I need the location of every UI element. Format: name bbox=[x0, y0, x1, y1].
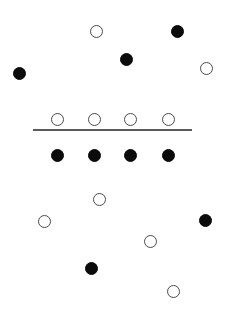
filled-circle-marker bbox=[124, 149, 137, 162]
dot-diagram-figure bbox=[0, 0, 229, 309]
open-circle-marker bbox=[88, 113, 101, 126]
open-circle-marker bbox=[162, 113, 175, 126]
filled-circle-marker bbox=[88, 149, 101, 162]
open-circle-marker bbox=[144, 235, 157, 248]
open-circle-marker bbox=[93, 193, 106, 206]
open-circle-marker bbox=[90, 25, 103, 38]
open-circle-marker bbox=[200, 62, 213, 75]
open-circle-marker bbox=[51, 113, 64, 126]
filled-circle-marker bbox=[199, 214, 212, 227]
filled-circle-marker bbox=[51, 149, 64, 162]
open-circle-marker bbox=[167, 285, 180, 298]
filled-circle-marker bbox=[171, 25, 184, 38]
open-circle-marker bbox=[38, 215, 51, 228]
open-circle-marker bbox=[124, 113, 137, 126]
filled-circle-marker bbox=[85, 262, 98, 275]
filled-circle-marker bbox=[13, 67, 26, 80]
horizontal-divider bbox=[33, 129, 192, 131]
filled-circle-marker bbox=[162, 149, 175, 162]
filled-circle-marker bbox=[120, 53, 133, 66]
